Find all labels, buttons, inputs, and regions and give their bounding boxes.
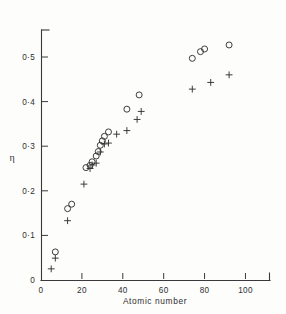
- data-point-circle: [124, 106, 130, 112]
- x-tick-label: 60: [159, 286, 169, 295]
- data-point-circle: [69, 201, 75, 207]
- y-tick-label: 0·2: [22, 187, 35, 196]
- x-tick-label: 100: [238, 286, 253, 295]
- y-tick-label: 0·5: [22, 53, 35, 62]
- x-axis-title: Atomic number: [123, 296, 187, 306]
- data-point-circle: [105, 129, 111, 135]
- data-marker-group: [48, 42, 233, 272]
- tick-label-group: 00·10·20·30·40·5020406080100: [22, 53, 253, 295]
- x-tick-label: 80: [200, 286, 210, 295]
- data-point-circle: [226, 42, 232, 48]
- data-point-circle: [189, 55, 195, 61]
- y-tick-label: 0·4: [22, 98, 35, 107]
- data-point-plus: [189, 86, 196, 93]
- data-point-plus: [113, 131, 120, 138]
- y-tick-label: 0·3: [22, 142, 35, 151]
- axis-group: [41, 30, 270, 281]
- data-point-plus: [52, 255, 59, 262]
- data-point-plus: [101, 141, 108, 148]
- data-point-plus: [105, 140, 112, 147]
- scatter-plot: 00·10·20·30·40·5020406080100 Atomic numb…: [0, 0, 286, 314]
- data-point-plus: [138, 108, 145, 115]
- data-point-plus: [123, 127, 130, 134]
- data-point-plus: [134, 116, 141, 123]
- data-point-plus: [48, 265, 55, 272]
- x-tick-label: 20: [77, 286, 87, 295]
- data-point-plus: [93, 160, 100, 167]
- data-point-circle: [136, 92, 142, 98]
- figure-panel: 00·10·20·30·40·5020406080100 Atomic numb…: [0, 0, 286, 314]
- tick-group: [42, 57, 245, 279]
- data-point-plus: [81, 181, 88, 188]
- data-point-plus: [226, 71, 233, 78]
- x-tick-label: 40: [118, 286, 128, 295]
- data-point-plus: [207, 79, 214, 86]
- y-tick-label: 0·1: [22, 231, 35, 240]
- data-point-plus: [64, 217, 71, 224]
- data-point-circle: [52, 249, 58, 255]
- y-tick-label: 0: [30, 276, 35, 285]
- x-tick-label: 0: [39, 286, 44, 295]
- y-axis-title: η: [9, 152, 14, 163]
